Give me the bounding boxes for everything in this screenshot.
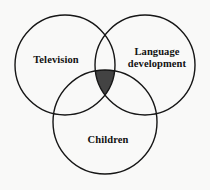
label-television: Television — [6, 54, 106, 66]
label-language-development: Language development — [107, 46, 207, 70]
venn-diagram: Television Language development Children — [0, 0, 210, 190]
label-children: Children — [58, 134, 158, 146]
venn-diagram-canvas — [0, 0, 210, 190]
